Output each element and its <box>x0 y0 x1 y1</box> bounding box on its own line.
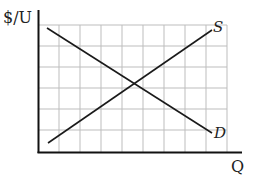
demand-label: D <box>213 124 226 142</box>
grid <box>38 25 227 152</box>
supply-label: S <box>213 18 223 36</box>
x-axis-label: Q <box>231 157 244 176</box>
supply-curve <box>48 30 212 143</box>
supply-demand-chart: $/U Q S D <box>0 0 258 184</box>
demand-curve <box>47 28 212 133</box>
y-axis-label: $/U <box>3 8 32 27</box>
